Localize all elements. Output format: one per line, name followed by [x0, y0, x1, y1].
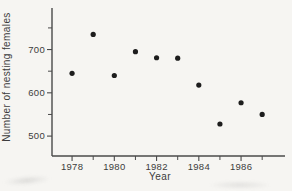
x-tick-label: 1986: [230, 161, 252, 172]
x-tick-label: 1984: [188, 161, 210, 172]
data-point-1981: [133, 49, 138, 54]
y-axis-title: Number of nesting females: [1, 12, 12, 142]
scatter-chart: 50060070019781980198219841986 Number of …: [0, 0, 292, 191]
y-tick-label: 500: [28, 130, 45, 141]
tick-marks: [47, 28, 262, 161]
data-point-1978: [69, 71, 74, 76]
data-point-1984: [196, 82, 201, 87]
data-point-1982: [154, 55, 159, 60]
data-point-1983: [175, 56, 180, 61]
data-point-1980: [112, 73, 117, 78]
y-tick-label: 700: [28, 44, 45, 55]
data-points: [69, 32, 264, 127]
scanned-chart-page: 50060070019781980198219841986 Number of …: [0, 0, 292, 191]
x-tick-label: 1978: [61, 161, 83, 172]
y-tick-label: 600: [28, 87, 45, 98]
tick-labels: 50060070019781980198219841986: [28, 44, 252, 172]
data-point-1985: [217, 121, 222, 126]
data-point-1979: [91, 32, 96, 37]
x-tick-label: 1980: [103, 161, 125, 172]
axes: [52, 8, 285, 156]
data-point-1986: [238, 100, 243, 105]
x-axis-title: Year: [149, 171, 171, 182]
data-point-1987: [260, 112, 265, 117]
